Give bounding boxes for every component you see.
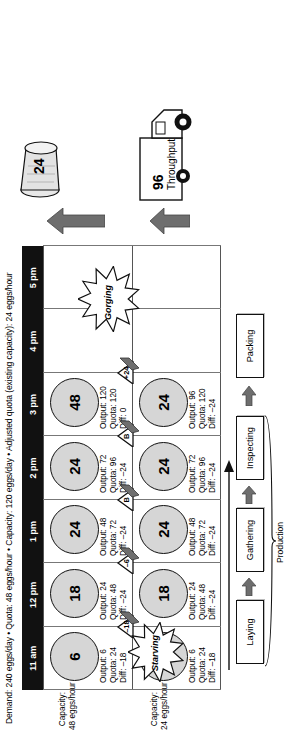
diagram-canvas: Demand: 240 eggs/day • Quota: 48 eggs/ho… bbox=[0, 0, 282, 730]
timeline-label-5: 4 pm bbox=[22, 309, 43, 372]
process-arrow bbox=[242, 578, 256, 596]
cell-stats: Output: 96Quota: 120Diff: –24 bbox=[188, 388, 219, 429]
process-arrow-to-packing bbox=[242, 386, 256, 406]
timeline-label-4: 3 pm bbox=[22, 373, 43, 436]
process-step-packing[interactable]: Packing bbox=[236, 314, 264, 378]
timeline-label-1: 12 pm bbox=[22, 563, 43, 626]
cell-stat-diff: Diff: –24 bbox=[208, 455, 218, 493]
process-arrow bbox=[242, 486, 256, 504]
process-step-laying[interactable]: Laying bbox=[236, 600, 264, 664]
cell-stats: Output: 6Quota: 24Diff: –18 bbox=[99, 647, 130, 683]
capacity-label-top-row: Capacity:48 eggs/hour bbox=[58, 692, 77, 730]
buffer-triangle[interactable]: –6 bbox=[116, 544, 148, 574]
output-circle: 24 bbox=[50, 442, 99, 491]
timeline-label-6: 5 pm bbox=[22, 246, 43, 309]
buffer-triangle[interactable]: B bbox=[116, 481, 148, 511]
capacity-label-line1: Capacity: bbox=[58, 692, 68, 730]
timeline-label-2: 1 pm bbox=[22, 500, 43, 563]
cell-stat-quota: Quota: 96 bbox=[198, 455, 208, 493]
cell-stat-output: Output: 48 bbox=[99, 518, 109, 556]
cell-stat-output: Output: 72 bbox=[99, 455, 109, 493]
burst-label: Starving bbox=[150, 635, 160, 671]
cell-stat-diff: Diff: –24 bbox=[208, 518, 218, 556]
cell-stats: Output: 6Quota: 24Diff: –18 bbox=[188, 647, 219, 683]
gorging-burst: Gorging bbox=[78, 266, 140, 332]
capacity-label-line2: 24 eggs/hour bbox=[160, 692, 170, 730]
cell-stat-output: Output: 24 bbox=[99, 582, 109, 620]
throughput-label: Throughput bbox=[166, 139, 177, 190]
figure-stage: Demand: 240 eggs/day • Quota: 48 eggs/ho… bbox=[0, 0, 282, 730]
throughput-flow-arrow bbox=[150, 208, 190, 234]
timeline-label-3: 2 pm bbox=[22, 436, 43, 499]
buffer-label: B bbox=[122, 425, 131, 447]
buffer-triangle[interactable]: +24 bbox=[116, 354, 148, 384]
cell-stat-output: Output: 72 bbox=[188, 455, 198, 493]
cell-stat-diff: Diff: –24 bbox=[208, 388, 218, 429]
cell-stat-output: Output: 120 bbox=[99, 386, 109, 429]
buffer-triangle[interactable]: B bbox=[116, 417, 148, 447]
cell-stat-quota: Quota: 24 bbox=[198, 647, 208, 683]
starving-burst: Starving bbox=[128, 622, 184, 682]
buffer-label: –6 bbox=[122, 552, 131, 574]
cell-stat-output: Output: 24 bbox=[188, 582, 198, 620]
burst-label: Gorging bbox=[103, 285, 113, 320]
output-circle: 24 bbox=[50, 505, 99, 554]
buffer-label: B bbox=[122, 489, 131, 511]
cell-stat-quota: Quota: 72 bbox=[198, 518, 208, 556]
timeline-label-0: 11 am bbox=[22, 627, 43, 690]
grid-vline-7 bbox=[43, 245, 221, 246]
production-group-label: Production bbox=[275, 522, 282, 563]
cell-stat-output: Output: 6 bbox=[99, 647, 109, 683]
flow-direction-arrow bbox=[220, 460, 230, 670]
cell-stat-output: Output: 6 bbox=[188, 647, 198, 683]
process-step-gathering[interactable]: Gathering bbox=[236, 508, 264, 572]
process-step-inspecting[interactable]: Inspecting bbox=[236, 416, 264, 480]
cell-stat-quota: Quota: 120 bbox=[198, 388, 208, 429]
waste-value: 24 bbox=[31, 158, 47, 174]
cell-stat-output: Output: 48 bbox=[188, 518, 198, 556]
cell-stat-diff: Diff: –18 bbox=[208, 647, 218, 683]
timeline-bar: 11 am12 pm1 pm2 pm3 pm4 pm5 pm bbox=[22, 246, 43, 690]
capacity-label-line1: Capacity: bbox=[150, 692, 160, 730]
output-circle: 18 bbox=[50, 569, 99, 618]
waste-flow-arrow bbox=[47, 208, 105, 234]
cell-stats: Output: 72Quota: 96Diff: –24 bbox=[188, 455, 219, 493]
truck-icon: 96Throughput bbox=[130, 92, 192, 202]
cell-stats: Output: 48Quota: 72Diff: –24 bbox=[188, 518, 219, 556]
capacity-label-line2: 48 eggs/hour bbox=[68, 692, 78, 730]
cell-stat-quota: Quota: 24 bbox=[109, 647, 119, 683]
figure-title: Demand: 240 eggs/day • Quota: 48 eggs/ho… bbox=[4, 272, 14, 724]
cell-stat-diff: Diff: –24 bbox=[208, 582, 218, 620]
buffer-label: +24 bbox=[122, 362, 131, 384]
cell-stats: Output: 24Quota: 48Diff: –24 bbox=[188, 582, 219, 620]
throughput-value: 96 bbox=[150, 174, 166, 190]
production-brace bbox=[263, 414, 275, 668]
trash-can-icon: 24 bbox=[18, 140, 62, 202]
cell-stat-quota: Quota: 48 bbox=[198, 582, 208, 620]
capacity-label-bottom-row: Capacity:24 eggs/hour bbox=[150, 692, 169, 730]
output-circle: 6 bbox=[50, 632, 99, 681]
cell-stat-output: Output: 96 bbox=[188, 388, 198, 429]
output-circle: 48 bbox=[50, 378, 99, 427]
